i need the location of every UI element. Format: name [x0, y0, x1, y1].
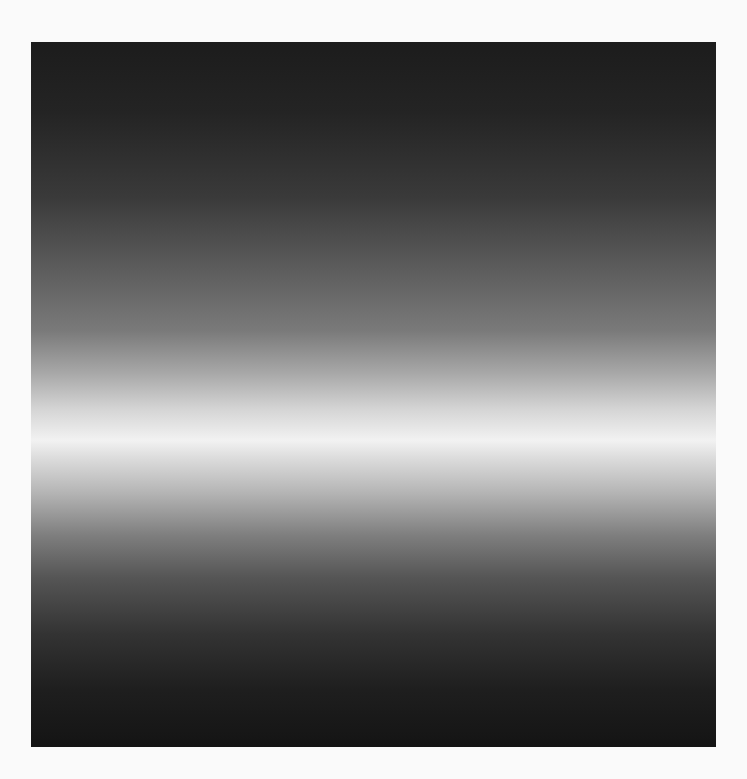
image-canvas: [0, 0, 747, 779]
grayscale-gradient-panel: [31, 42, 716, 747]
